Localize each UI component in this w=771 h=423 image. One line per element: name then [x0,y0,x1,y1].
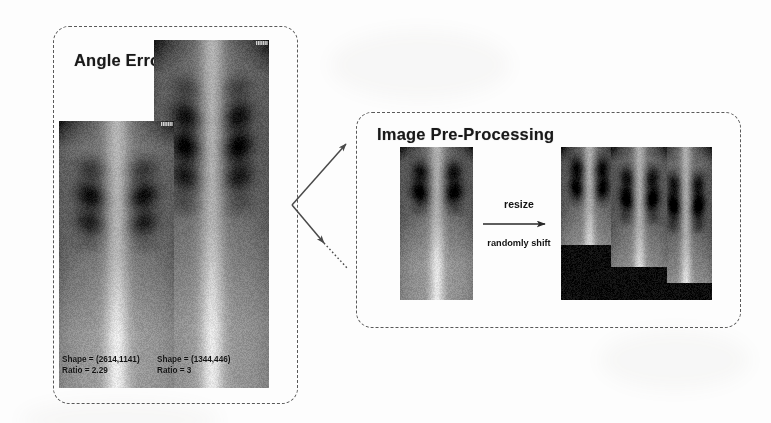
branch-arrow-lower-icon [292,205,324,243]
resize-arrow-icon [481,215,557,233]
panel-preprocessing-title: Image Pre-Processing [377,125,554,144]
chest-xray-wide-caption: Shape = (2614,1141) Ratio = 2.29 [62,355,140,376]
shifted-xray-1 [561,147,617,300]
resize-label: resize [481,198,557,210]
caption-ratio-wide: Ratio = 2.29 [62,366,140,377]
resize-transform-group: resize randomly shift [481,198,557,254]
shifted-xray-2 [611,147,667,300]
chest-xray-tall-caption: Shape = (1344,446) Ratio = 3 [157,355,231,376]
branch-connectors [290,140,370,270]
chest-xray-wide [59,121,174,388]
source-xray [400,147,473,300]
branch-arrow-upper-icon [292,144,346,205]
scan-texture-blotch [600,330,750,390]
branch-arrow-lower-tail-icon [324,243,348,269]
randomly-shift-label: randomly shift [477,238,561,248]
caption-shape-wide: Shape = (2614,1141) [62,355,140,366]
caption-shape-tall: Shape = (1344,446) [157,355,231,366]
caption-ratio-tall: Ratio = 3 [157,366,231,377]
shifted-xray-stack [561,147,712,300]
scan-texture-blotch [330,30,510,100]
figure-canvas: Angle Error Shape = (2614,1141) Ratio = … [0,0,771,423]
